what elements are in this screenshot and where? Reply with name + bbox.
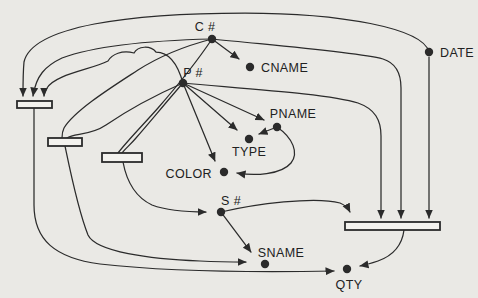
node-date-dot xyxy=(425,48,433,56)
node-pname-label: PNAME xyxy=(270,107,316,121)
node-s-number-dot xyxy=(217,208,225,216)
fd-diagram: C #CNAMEDATEP #PNAMETYPECOLORS #SNAMEQTY xyxy=(0,0,478,298)
node-type-label: TYPE xyxy=(232,145,266,159)
node-date-label: DATE xyxy=(440,46,474,60)
bar-left-top xyxy=(17,101,52,108)
node-cname-dot xyxy=(246,63,254,71)
node-type-dot xyxy=(245,135,253,143)
node-c-number-dot xyxy=(208,35,216,43)
node-sname-label: SNAME xyxy=(258,246,304,260)
bar-right xyxy=(345,222,440,230)
bar-left-mid xyxy=(48,138,82,146)
node-c-number-label: C # xyxy=(195,20,216,34)
node-cname-label: CNAME xyxy=(261,61,308,75)
fd-diagram-page: C #CNAMEDATEP #PNAMETYPECOLORS #SNAMEQTY xyxy=(0,0,478,298)
node-p-number-dot xyxy=(179,79,187,87)
bar-left-lower xyxy=(102,153,142,162)
node-color-dot xyxy=(220,168,228,176)
node-s-number-label: S # xyxy=(221,194,241,208)
node-p-number-label: P # xyxy=(183,66,203,80)
node-sname-dot xyxy=(261,260,269,268)
node-pname-dot xyxy=(273,123,281,131)
node-qty-dot xyxy=(343,265,351,273)
node-color-label: COLOR xyxy=(166,167,212,181)
node-qty-label: QTY xyxy=(336,278,363,292)
